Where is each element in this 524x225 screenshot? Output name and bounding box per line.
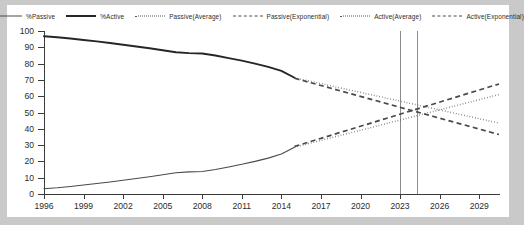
legend-item-passive-average[interactable]: Passive(Average) bbox=[135, 13, 221, 20]
x-axis-label: 2026 bbox=[430, 201, 449, 211]
x-axis-label: 2002 bbox=[114, 201, 133, 211]
x-axis-label: 2014 bbox=[272, 201, 291, 211]
x-axis-label: 1999 bbox=[74, 201, 93, 211]
legend-label: %Passive bbox=[26, 13, 55, 20]
x-axis-label: 2011 bbox=[233, 201, 251, 211]
legend-label: Passive(Average) bbox=[169, 13, 221, 20]
x-axis-label: 2029 bbox=[470, 201, 489, 211]
legend-item-active-average[interactable]: Active(Average) bbox=[340, 13, 421, 20]
series-line-active-average bbox=[295, 78, 499, 123]
legend-label: %Active bbox=[100, 13, 124, 20]
chart-legend: %Passive%ActivePassive(Average)Passive(E… bbox=[7, 5, 509, 27]
y-axis-label: 20 bbox=[0, 156, 34, 166]
x-axis-label: 2005 bbox=[153, 201, 172, 211]
x-axis-line bbox=[44, 194, 500, 195]
x-axis-label: 2017 bbox=[311, 201, 330, 211]
y-axis-label: 0 bbox=[0, 189, 34, 199]
y-axis-label: 40 bbox=[0, 124, 34, 134]
line-solid-thin-swatch bbox=[0, 13, 22, 20]
legend-item-active[interactable]: %Active bbox=[66, 13, 124, 20]
series-line-passive bbox=[44, 147, 295, 189]
x-axis-tick bbox=[361, 194, 362, 199]
y-axis-label: 10 bbox=[0, 173, 34, 183]
line-dashed-swatch bbox=[432, 13, 462, 20]
x-axis-label: 2008 bbox=[193, 201, 212, 211]
legend-item-passive[interactable]: %Passive bbox=[0, 13, 55, 20]
x-axis-tick bbox=[123, 194, 124, 199]
legend-label: Active(Average) bbox=[374, 13, 421, 20]
y-axis-label: 50 bbox=[0, 108, 34, 118]
x-axis-tick bbox=[321, 194, 322, 199]
series-line-active-exponential bbox=[295, 78, 499, 134]
line-dotted-swatch bbox=[340, 13, 370, 20]
x-axis-tick bbox=[202, 194, 203, 199]
line-solid-thick-swatch bbox=[66, 13, 96, 20]
x-axis-tick bbox=[400, 194, 401, 199]
x-axis-tick bbox=[84, 194, 85, 199]
series-line-passive-exponential bbox=[295, 84, 499, 146]
x-axis-tick bbox=[479, 194, 480, 199]
series-line-passive-average bbox=[295, 95, 499, 148]
series-line-active bbox=[44, 36, 295, 78]
legend-label: Passive(Exponential) bbox=[267, 13, 330, 20]
y-axis-label: 80 bbox=[0, 59, 34, 69]
y-axis-label: 30 bbox=[0, 140, 34, 150]
series-lines bbox=[44, 31, 499, 194]
line-dotted-swatch bbox=[135, 13, 165, 20]
legend-label: Active(Exponential) bbox=[466, 13, 524, 20]
x-axis-tick bbox=[242, 194, 243, 199]
legend-item-active-exponential[interactable]: Active(Exponential) bbox=[432, 13, 524, 20]
x-axis-tick bbox=[440, 194, 441, 199]
x-axis-label: 2020 bbox=[351, 201, 370, 211]
y-axis-label: 60 bbox=[0, 91, 34, 101]
x-axis-tick bbox=[163, 194, 164, 199]
line-dashed-swatch bbox=[233, 13, 263, 20]
y-axis-label: 90 bbox=[0, 42, 34, 52]
x-axis-label: 1996 bbox=[34, 201, 53, 211]
y-axis-label: 100 bbox=[0, 26, 34, 36]
x-axis-label: 2023 bbox=[391, 201, 410, 211]
legend-item-passive-exponential[interactable]: Passive(Exponential) bbox=[233, 13, 330, 20]
x-axis-tick bbox=[281, 194, 282, 199]
x-axis-tick bbox=[44, 194, 45, 199]
y-axis-label: 70 bbox=[0, 75, 34, 85]
